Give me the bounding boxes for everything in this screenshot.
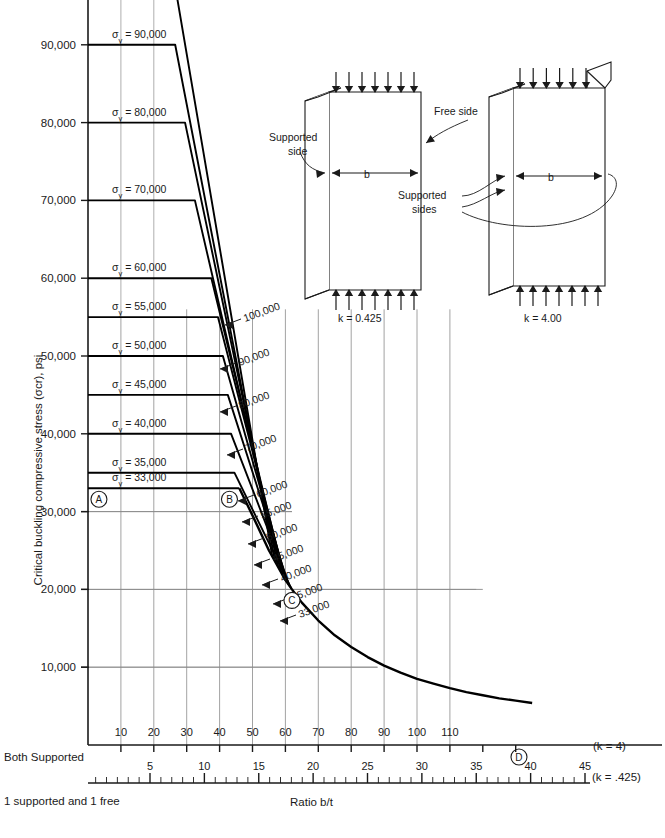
x-tick-label-primary: 10	[115, 726, 127, 738]
k-label-right: k = 4.00	[524, 312, 562, 324]
supported-side-label-line1: Supported	[269, 131, 318, 143]
k-label-left: k = 0.425	[338, 312, 382, 324]
x-tick-label-primary: 40	[213, 726, 225, 738]
supported-sides-label-line2: sides	[412, 203, 437, 215]
x-tick-label-secondary: 20	[307, 760, 319, 772]
x-tick-label-secondary: 30	[416, 760, 428, 772]
y-tick-label: 20,000	[41, 583, 76, 595]
x-tick-label-secondary: 45	[579, 760, 591, 772]
y-tick-label: 90,000	[41, 39, 76, 51]
b-dimension-label-left: b	[364, 168, 370, 180]
chart-root: σy = 100,000σy = 90,000σy = 80,000σy = 7…	[0, 0, 665, 838]
y-tick-label: 40,000	[41, 428, 76, 440]
x-tick-label-secondary: 25	[361, 760, 373, 772]
marker-letter: C	[288, 595, 295, 606]
marker-letter: D	[515, 752, 522, 763]
x-tick-label-secondary: 10	[198, 760, 210, 772]
supported-sides-label-line1: Supported	[398, 189, 447, 201]
x-tick-label-primary: 70	[312, 726, 324, 738]
x-tick-label-secondary: 35	[470, 760, 482, 772]
x-tick-label-primary: 60	[279, 726, 291, 738]
x-tick-label-secondary: 5	[147, 760, 153, 772]
y-tick-label: 10,000	[41, 661, 76, 673]
y-tick-label: 50,000	[41, 350, 76, 362]
both-supported-note: Both Supported	[4, 751, 84, 763]
marker-C: C	[284, 592, 300, 608]
k4-label: (k = 4)	[593, 740, 626, 752]
marker-B: B	[221, 491, 237, 507]
x-tick-label-primary: 20	[148, 726, 160, 738]
marker-letter: B	[226, 494, 233, 505]
marker-letter: A	[96, 494, 103, 505]
x-tick-label-secondary: 40	[525, 760, 537, 772]
y-tick-label: 80,000	[41, 117, 76, 129]
x-tick-label-primary: 100	[408, 726, 426, 738]
supported-side-label-line2: side	[288, 145, 307, 157]
free-side-label: Free side	[434, 105, 478, 117]
k425-label: (k = .425)	[592, 771, 641, 783]
y-tick-label: 60,000	[41, 272, 76, 284]
buckling-stress-chart: σy = 100,000σy = 90,000σy = 80,000σy = 7…	[0, 0, 665, 838]
x-tick-label-secondary: 15	[253, 760, 265, 772]
b-dimension-label-right: b	[548, 171, 554, 183]
y-tick-label: 30,000	[41, 506, 76, 518]
marker-A: A	[91, 491, 107, 507]
x-tick-label-primary: 90	[378, 726, 390, 738]
one-supported-one-free-note: 1 supported and 1 free	[4, 795, 120, 807]
x-axis-title: Ratio b/t	[290, 796, 334, 808]
x-tick-label-primary: 110	[441, 726, 459, 738]
x-tick-label-primary: 80	[345, 726, 357, 738]
y-tick-label: 70,000	[41, 194, 76, 206]
x-tick-label-primary: 30	[181, 726, 193, 738]
y-axis-title: Critical buckling compressive stress (σc…	[32, 355, 44, 586]
x-tick-label-primary: 50	[246, 726, 258, 738]
